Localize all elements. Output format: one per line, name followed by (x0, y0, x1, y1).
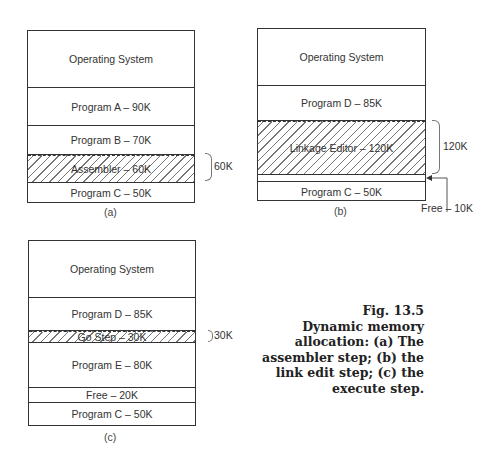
segment-program-d: Program D – 85K (29, 298, 195, 331)
caption-line: assembler step; (b) the (262, 350, 424, 366)
segment-label: Assembler – 60K (71, 163, 151, 175)
segment-go-step: Go Step – 30K (29, 331, 195, 343)
segment-program-c: Program C – 50K (258, 182, 425, 201)
segment-label: Go Step – 30K (78, 331, 147, 343)
figure-caption: Fig. 13.5 Dynamic memory allocation: (a)… (262, 303, 424, 396)
segment-program-a: Program A – 90K (28, 88, 194, 126)
segment-label: Program E – 80K (72, 359, 153, 371)
segment-label: Linkage Editor – 120K (290, 142, 393, 154)
segment-label: Operating System (70, 263, 154, 275)
free-label-b: Free – 10K (421, 202, 473, 214)
segment-operating-system: Operating System (258, 29, 425, 86)
caption-line: Dynamic memory (262, 319, 424, 335)
brace-c (208, 330, 213, 342)
caption-line: allocation: (a) The (262, 334, 424, 350)
caption-line: link edit step; (c) the (262, 365, 424, 381)
segment-program-b: Program B – 70K (28, 126, 194, 155)
brace-label-a: 60K (214, 160, 233, 172)
memory-map-a: Operating System Program A – 90K Program… (27, 30, 195, 203)
segment-program-d: Program D – 85K (258, 86, 425, 121)
segment-program-e: Program E – 80K (29, 343, 195, 388)
brace-a (205, 153, 212, 181)
segment-free: Free – 20K (29, 388, 195, 403)
segment-label: Program C – 50K (301, 186, 382, 198)
diagram-label-b: (b) (334, 205, 347, 217)
brace-label-c: 30K (214, 329, 233, 341)
segment-label: Program C – 50K (71, 408, 152, 420)
brace-label-b: 120K (443, 140, 468, 152)
segment-operating-system: Operating System (28, 31, 194, 88)
segment-label: Program B – 70K (71, 134, 152, 146)
caption-line: execute step. (262, 381, 424, 397)
brace-b (432, 120, 440, 174)
segment-label: Program C – 50K (70, 187, 151, 199)
segment-label: Program D – 85K (71, 308, 152, 320)
segment-label: Program A – 90K (71, 101, 150, 113)
segment-program-c: Program C – 50K (29, 403, 195, 425)
memory-map-c: Operating System Program D – 85K Go Step… (28, 240, 196, 426)
segment-label: Program D – 85K (301, 97, 382, 109)
segment-label: Free – 20K (86, 389, 138, 401)
diagram-label-a: (a) (104, 206, 117, 218)
segment-linkage-editor: Linkage Editor – 120K (258, 121, 425, 175)
segment-label: Operating System (69, 53, 153, 65)
memory-map-b: Operating System Program D – 85K Linkage… (257, 28, 426, 201)
segment-operating-system: Operating System (29, 241, 195, 298)
segment-label: Operating System (299, 51, 383, 63)
segment-free (258, 175, 425, 182)
diagram-label-c: (c) (104, 431, 116, 443)
caption-line: Fig. 13.5 (262, 303, 424, 319)
segment-assembler: Assembler – 60K (28, 155, 194, 183)
segment-program-c: Program C – 50K (28, 183, 194, 203)
